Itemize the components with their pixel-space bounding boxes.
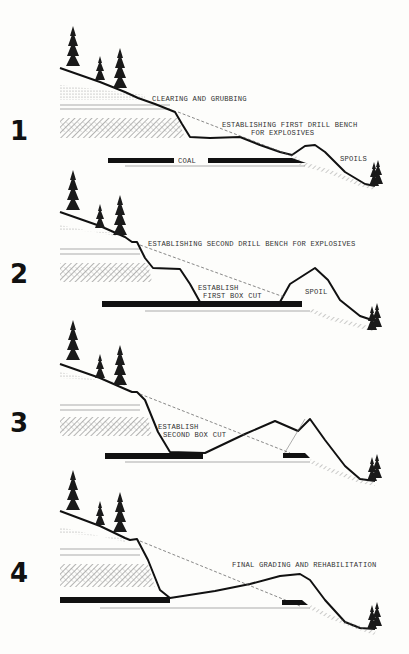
label-first-box-cut-1: ESTABLISH	[198, 284, 239, 292]
label-first-drill-bench-2: FOR EXPLOSIVES	[251, 129, 314, 137]
panel-number-3: 3	[10, 408, 28, 438]
label-second-box-cut-1: ESTABLISH	[158, 423, 199, 431]
coal-seam	[102, 301, 302, 307]
panel-2: 2 ESTABLISHING SECOND DRILL BENCH FOR EX…	[10, 170, 382, 330]
label-spoils: SPOILS	[340, 155, 367, 163]
coal-seam	[105, 453, 203, 459]
panel-4: 4 FINAL GRADING AND REHABILITATION	[10, 470, 382, 633]
label-final-grading: FINAL GRADING AND REHABILITATION	[232, 561, 376, 569]
panel-3: 3 ESTABLISH SECOND BOX CUT	[10, 320, 382, 484]
label-second-drill-bench: ESTABLISHING SECOND DRILL BENCH FOR EXPL…	[148, 240, 356, 248]
topsoil-stratum	[60, 85, 145, 100]
coal-seam	[108, 158, 174, 163]
mining-stages-diagram: 1 CLEARING AND GRUBBING ESTABLISHING FIR…	[0, 0, 409, 654]
label-first-box-cut-2: FIRST BOX CUT	[203, 292, 262, 300]
panel-1: 1 CLEARING AND GRUBBING ESTABLISHING FIR…	[10, 26, 383, 188]
panel-number-1: 1	[10, 116, 28, 146]
label-first-drill-bench-1: ESTABLISHING FIRST DRILL BENCH	[222, 121, 357, 129]
label-spoil: SPOIL	[305, 288, 328, 296]
panel-number-4: 4	[10, 558, 28, 588]
label-clearing-grubbing: CLEARING AND GRUBBING	[152, 95, 247, 103]
coal-seam	[60, 597, 170, 603]
label-coal: COAL	[178, 157, 196, 165]
panel-number-2: 2	[10, 259, 28, 289]
label-second-box-cut-2: SECOND BOX CUT	[163, 431, 227, 439]
